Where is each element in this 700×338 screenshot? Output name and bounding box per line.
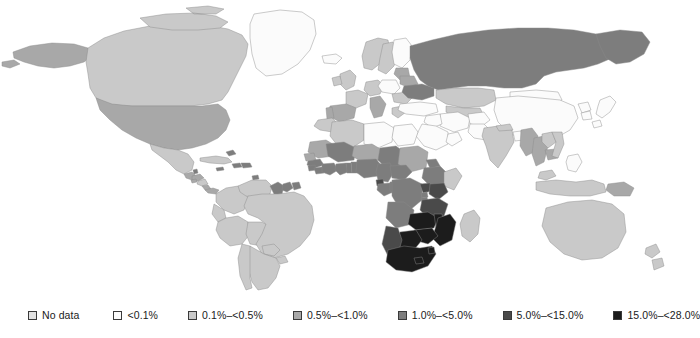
country-italy — [370, 96, 386, 118]
country-turkey — [398, 102, 438, 116]
legend-swatch-1-0-to-5-0 — [398, 311, 407, 320]
country-malaysia — [538, 170, 556, 180]
country-peru — [216, 216, 250, 246]
country-united-kingdom — [340, 70, 356, 90]
map-legend: No data <0.1% 0.1%–<0.5% 0.5%–<1.0% 1.0%… — [0, 300, 681, 330]
legend-label-0-5-to-1-0: 0.5%–<1.0% — [307, 310, 368, 321]
legend-item-4: 1.0%–<5.0% — [398, 310, 473, 321]
country-cuba — [200, 156, 232, 164]
country-libya — [364, 122, 394, 148]
legend-label-no-data: No data — [42, 310, 79, 321]
legend-swatch-0-1-to-0-5 — [188, 311, 197, 320]
country-jamaica — [216, 167, 224, 171]
country-chile — [238, 244, 252, 290]
country-alaska — [2, 43, 92, 68]
country-new-zealand — [645, 244, 664, 270]
country-finland — [392, 38, 412, 68]
legend-item-1: <0.1% — [113, 310, 158, 321]
country-guyana — [270, 182, 284, 194]
legend-label-5-0-to-15-0: 5.0%–<15.0% — [517, 310, 584, 321]
legend-label-0-1-to-0-5: 0.1%–<0.5% — [202, 310, 263, 321]
country-arabian-peninsula — [446, 132, 462, 146]
country-madagascar — [460, 210, 480, 242]
legend-label-1-0-to-5-0: 1.0%–<5.0% — [412, 310, 473, 321]
legend-item-2: 0.1%–<0.5% — [188, 310, 263, 321]
country-indonesia — [536, 180, 606, 196]
legend-label-15-0-to-28-0: 15.0%–<28.0% — [627, 310, 700, 321]
legend-label-lt-0-1: <0.1% — [127, 310, 158, 321]
country-canada — [86, 24, 248, 106]
country-india — [482, 126, 514, 168]
country-kenya — [429, 183, 448, 200]
country-egypt — [392, 124, 418, 146]
legend-item-5: 5.0%–<15.0% — [503, 310, 584, 321]
country-nepal — [496, 124, 513, 131]
legend-item-0: No data — [28, 310, 79, 321]
country-el-salvador — [191, 179, 197, 183]
legend-swatch-no-data — [28, 311, 37, 320]
country-eswatini — [428, 247, 435, 254]
country-kazakhstan — [436, 88, 496, 108]
country-vietnam — [552, 132, 564, 158]
country-united-states — [96, 98, 230, 150]
country-japan — [592, 96, 616, 128]
country-greenland — [250, 10, 316, 76]
legend-swatch-5-0-to-15-0 — [503, 311, 512, 320]
country-bahamas — [226, 150, 236, 156]
country-suriname — [282, 182, 293, 192]
legend-swatch-0-5-to-1-0 — [293, 311, 302, 320]
country-iceland — [322, 54, 342, 64]
world-map-figure — [0, 0, 681, 292]
legend-swatch-lt-0-1 — [113, 311, 122, 320]
legend-item-3: 0.5%–<1.0% — [293, 310, 368, 321]
legend-item-6: 15.0%–<28.0% — [613, 310, 700, 321]
country-saudi-arabia — [416, 124, 448, 150]
world-map-svg — [0, 0, 681, 292]
country-philippines — [566, 154, 582, 172]
country-australia — [542, 200, 626, 260]
legend-swatch-15-0-to-28-0 — [613, 311, 622, 320]
country-papua-new-guinea — [606, 182, 634, 196]
country-dominican-republic — [241, 163, 252, 168]
country-canada-arctic — [140, 6, 228, 30]
country-haiti — [232, 163, 242, 168]
country-french-guiana — [292, 182, 301, 190]
country-ireland — [332, 76, 342, 86]
country-somalia — [444, 168, 462, 190]
country-russia — [410, 28, 618, 90]
country-trinidad — [252, 175, 259, 180]
country-belize — [193, 169, 198, 174]
country-lesotho — [414, 257, 424, 264]
